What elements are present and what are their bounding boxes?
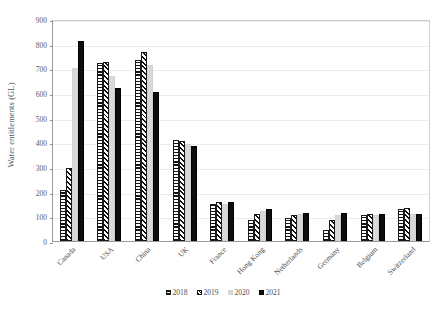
bar [416, 214, 422, 241]
chart-legend: 2018201920202021 [0, 288, 446, 297]
y-axis-tick-label: 800 [36, 40, 47, 49]
x-axis-label-slot: Hong Kong [241, 243, 279, 288]
bar-group [135, 21, 159, 241]
x-axis-label-slot: USA [90, 243, 128, 288]
bar [78, 41, 84, 241]
y-axis-tick-label: 600 [36, 90, 47, 99]
legend-item[interactable]: 2019 [197, 288, 219, 297]
bar-group [285, 21, 309, 241]
x-axis-label-slot: Netherlands [279, 243, 317, 288]
legend-label: 2018 [173, 288, 188, 297]
bar [191, 146, 197, 241]
y-axis-tick-label: 300 [36, 164, 47, 173]
bar [115, 88, 121, 241]
bar-group [173, 21, 197, 241]
y-axis-tick-label: 900 [36, 16, 47, 25]
x-axis-tick-label: USA [98, 245, 115, 262]
y-axis-tick-label: 500 [36, 114, 47, 123]
bar-group [248, 21, 272, 241]
bar [266, 209, 272, 241]
bar [379, 214, 385, 241]
bar [303, 213, 309, 241]
legend-swatch-icon [197, 290, 202, 295]
legend-item[interactable]: 2021 [259, 288, 281, 297]
legend-label: 2021 [266, 288, 281, 297]
x-axis-label-slot: France [203, 243, 241, 288]
bar [341, 213, 347, 241]
y-axis-tick-label: 0 [43, 238, 47, 247]
bar [228, 202, 234, 241]
x-axis-label-slot: Belgium [354, 243, 392, 288]
x-axis-label-slot: UK [165, 243, 203, 288]
bar-chart: Water entitlements (GL) 0100200300400500… [0, 0, 446, 311]
x-axis-tick-label: Germany [316, 245, 342, 271]
legend-swatch-icon [228, 290, 233, 295]
legend-label: 2020 [235, 288, 250, 297]
x-axis-tick-label: France [208, 245, 229, 266]
y-axis-tick-label: 100 [36, 213, 47, 222]
x-axis-tick-label: Canada [55, 245, 77, 267]
x-axis-label-slot: Germany [317, 243, 355, 288]
x-axis-tick-label: UK [177, 245, 191, 259]
y-axis-tick-labels: 0100200300400500600700800900 [22, 20, 50, 242]
x-axis-label-slot: Switzerland [392, 243, 430, 288]
x-axis-tick-label: Belgium [355, 245, 380, 270]
bar-group [60, 21, 84, 241]
x-axis-tick-labels: CanadaUSAChinaUKFranceHong KongNetherlan… [52, 243, 430, 288]
x-axis-tick-label: China [134, 245, 153, 264]
y-axis-title-text: Water entitlements (GL) [6, 82, 16, 167]
bar-group [361, 21, 385, 241]
x-axis-label-slot: China [128, 243, 166, 288]
plot-area [52, 20, 430, 242]
bar [153, 92, 159, 241]
bar-group [210, 21, 234, 241]
legend-label: 2019 [204, 288, 219, 297]
legend-item[interactable]: 2020 [228, 288, 250, 297]
bar-group [97, 21, 121, 241]
bar-group [323, 21, 347, 241]
x-axis-label-slot: Canada [52, 243, 90, 288]
y-axis-title: Water entitlements (GL) [0, 0, 22, 250]
bars-layer [53, 21, 429, 241]
y-axis-tick-label: 700 [36, 65, 47, 74]
y-axis-tick-label: 400 [36, 139, 47, 148]
bar-group [398, 21, 422, 241]
legend-swatch-icon [166, 290, 171, 295]
legend-swatch-icon [259, 290, 264, 295]
y-axis-tick-label: 200 [36, 188, 47, 197]
legend-item[interactable]: 2018 [166, 288, 188, 297]
